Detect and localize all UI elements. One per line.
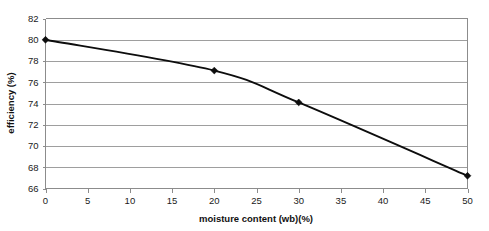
x-tick-label-5: 5 bbox=[85, 195, 90, 206]
y-tick-label-70: 70 bbox=[28, 140, 39, 151]
y-axis-tick-labels: 666870727476788082 bbox=[28, 13, 39, 194]
x-tick-label-10: 10 bbox=[125, 195, 136, 206]
x-tick-label-40: 40 bbox=[378, 195, 389, 206]
x-axis-tick-labels: 05101520253035404550 bbox=[43, 195, 473, 206]
x-tick-label-30: 30 bbox=[293, 195, 304, 206]
x-tick-label-20: 20 bbox=[209, 195, 220, 206]
y-tick-label-76: 76 bbox=[28, 77, 39, 88]
x-tick-label-45: 45 bbox=[420, 195, 431, 206]
x-tick-label-35: 35 bbox=[336, 195, 347, 206]
y-tick-label-72: 72 bbox=[28, 119, 39, 130]
y-tick-label-68: 68 bbox=[28, 162, 39, 173]
x-tick-label-15: 15 bbox=[167, 195, 178, 206]
x-tick-label-25: 25 bbox=[251, 195, 262, 206]
y-tick-label-82: 82 bbox=[28, 13, 39, 24]
y-tick-label-66: 66 bbox=[28, 183, 39, 194]
x-tick-label-0: 0 bbox=[43, 195, 48, 206]
y-axis-title: efficiency (%) bbox=[5, 72, 16, 133]
x-axis-tick-marks bbox=[47, 189, 469, 193]
x-tick-label-50: 50 bbox=[462, 195, 473, 206]
efficiency-vs-moisture-line-chart: 666870727476788082 05101520253035404550 … bbox=[0, 0, 489, 231]
y-tick-label-80: 80 bbox=[28, 34, 39, 45]
plot-background bbox=[46, 19, 468, 189]
chart-container: 666870727476788082 05101520253035404550 … bbox=[0, 0, 489, 231]
x-axis-title: moisture content (wb)(%) bbox=[199, 213, 313, 224]
y-tick-label-78: 78 bbox=[28, 55, 39, 66]
y-tick-label-74: 74 bbox=[28, 98, 39, 109]
